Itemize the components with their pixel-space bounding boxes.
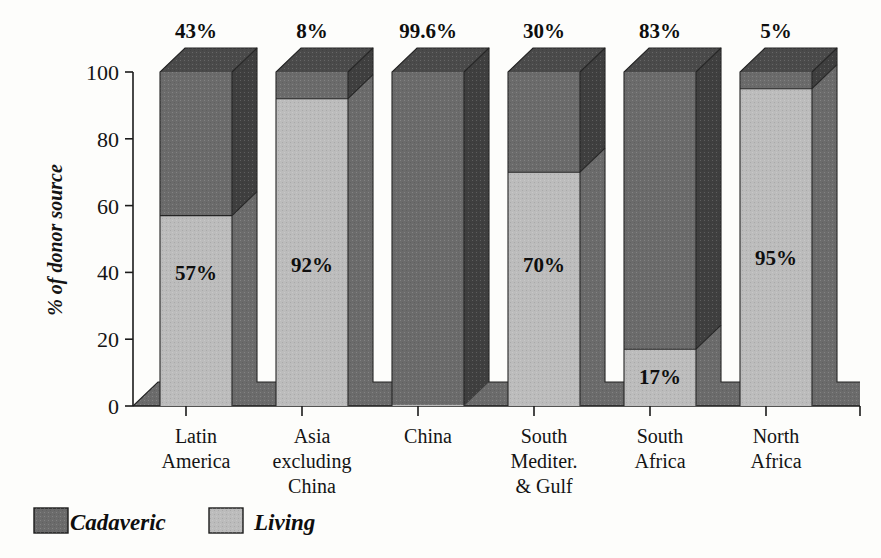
bar-top-label: 83% [639, 19, 681, 43]
bar-inner-label: 92% [291, 253, 333, 277]
bar-top-label: 99.6% [399, 19, 457, 43]
category-label-asia-line2: excluding [273, 450, 352, 473]
category-label-china-line1: China [404, 425, 452, 447]
category-label-asia-line3: China [288, 475, 336, 497]
bar-group-south-africa[interactable]: 83% 17% [624, 19, 721, 406]
bar-group-china[interactable]: 99.6% [392, 19, 489, 406]
bar-group-asia-excluding-china[interactable]: 8% 92% [276, 19, 373, 406]
y-tick-label-60: 60 [97, 194, 119, 219]
bar-inner-label: 17% [639, 365, 681, 389]
category-label-latin-america-line2: America [162, 450, 231, 472]
category-label-south-mediter-line3: & Gulf [515, 475, 573, 497]
category-label-south-africa-line1: South [637, 425, 684, 447]
bar-top-label: 43% [175, 19, 217, 43]
y-tick-label-0: 0 [108, 394, 119, 419]
category-label-latin-america-line1: Latin [175, 425, 217, 447]
legend-label-living: Living [253, 510, 315, 535]
stacked-bar-chart: 100 80 60 40 20 0 % of donor source [0, 0, 881, 558]
legend-item-cadaveric[interactable]: Cadaveric [34, 508, 166, 535]
y-tick-label-100: 100 [86, 60, 119, 85]
bar-segment-living[interactable] [392, 405, 464, 406]
category-label-north-africa-line1: North [753, 425, 800, 447]
y-tick-label-20: 20 [97, 327, 119, 352]
bar-inner-label: 57% [175, 261, 217, 285]
bar-group-latin-america[interactable]: 43% 57% [160, 19, 257, 406]
bar-group-south-mediter-gulf[interactable]: 30% 70% [508, 19, 605, 406]
category-label-north-africa-line2: Africa [750, 450, 801, 472]
category-label-asia-line1: Asia [294, 425, 331, 447]
legend-label-cadaveric: Cadaveric [70, 510, 166, 535]
bar-group-north-africa[interactable]: 5% 95% [740, 19, 837, 406]
category-label-south-africa-line2: Africa [634, 450, 685, 472]
y-axis-title: % of donor source [44, 164, 67, 316]
category-label-south-mediter-line1: South [521, 425, 568, 447]
bar-inner-label: 70% [523, 253, 565, 277]
y-tick-label-40: 40 [97, 260, 119, 285]
chart-container: 100 80 60 40 20 0 % of donor source [0, 0, 881, 558]
bar-inner-label: 95% [755, 246, 797, 270]
category-label-south-mediter-line2: Mediter. [510, 450, 577, 472]
y-tick-label-80: 80 [97, 127, 119, 152]
bar-top-label: 30% [523, 19, 565, 43]
legend-item-living[interactable]: Living [209, 508, 315, 535]
bar-top-label: 5% [760, 19, 792, 43]
bar-top-label: 8% [296, 19, 328, 43]
